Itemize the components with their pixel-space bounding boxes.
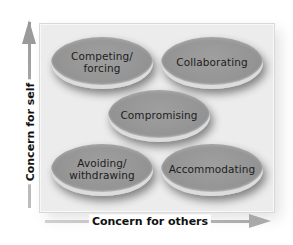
arrow-up-icon bbox=[22, 20, 36, 44]
y-axis-label: Concern for self bbox=[24, 80, 37, 185]
style-label: Compromising bbox=[120, 109, 197, 121]
style-competing: Competing/ forcing bbox=[51, 37, 153, 89]
conflict-styles-diagram: Concern for self Concern for others Comp… bbox=[0, 0, 293, 245]
style-label: Collaborating bbox=[176, 56, 248, 68]
style-compromising: Compromising bbox=[108, 90, 210, 142]
style-avoiding: Avoiding/ withdrawing bbox=[51, 144, 153, 196]
x-axis-label: Concern for others bbox=[89, 215, 211, 228]
style-collaborating: Collaborating bbox=[161, 37, 263, 89]
style-accommodating: Accommodating bbox=[161, 144, 263, 196]
style-label: Competing/ forcing bbox=[71, 50, 133, 74]
style-label: Accommodating bbox=[169, 163, 256, 175]
arrow-right-icon bbox=[249, 214, 271, 228]
style-label: Avoiding/ withdrawing bbox=[69, 157, 135, 181]
